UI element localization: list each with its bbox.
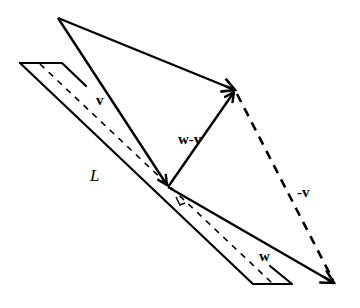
plane-bottom-edge [253, 266, 292, 284]
label-w-minus-v: w-v [178, 131, 202, 147]
right-angle-marker [176, 197, 185, 205]
plane-outer-edge [20, 63, 253, 284]
label-neg-v: -v [297, 184, 310, 200]
label-w: w [259, 248, 270, 264]
plane-top-edge [20, 63, 86, 86]
vector-w [168, 187, 334, 283]
label-v: v [96, 92, 104, 108]
vector-diagram: v w-v -v w L [0, 0, 360, 308]
vector-w-from-origin [58, 18, 235, 90]
label-line-l: L [89, 166, 99, 185]
vector-neg-v-dashed [237, 94, 333, 280]
vector-v [58, 18, 167, 185]
